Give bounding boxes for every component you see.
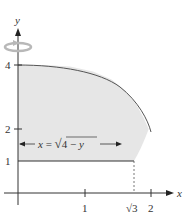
y-tick-label-4: 4 [5,59,11,71]
y-tick-label-2: 2 [5,123,11,135]
curve-equation-label: x = √4 − y [37,136,84,151]
x-axis-arrow-icon [166,190,174,196]
x-tick-label-1: 1 [82,202,88,214]
y-tick-label-1: 1 [5,155,11,167]
y-axis-arrow-icon [15,28,21,36]
x-tick-label-2: 2 [148,202,154,214]
x-axis-label: x [176,187,182,199]
volume-of-revolution-diagram: x y 1 √3 2 4 2 1 x = √4 − y [0,0,186,223]
y-axis-label: y [14,14,20,26]
x-tick-label-sqrt3: √3 [126,202,138,214]
